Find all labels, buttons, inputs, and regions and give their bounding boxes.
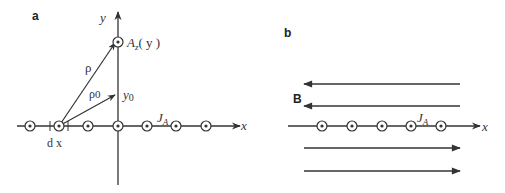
rho-label: ρ bbox=[85, 60, 92, 75]
current-out-icon bbox=[113, 121, 123, 131]
potential-label: Az( y ) bbox=[126, 35, 160, 52]
current-out-icon bbox=[406, 121, 416, 131]
current-out-icon bbox=[377, 121, 387, 131]
rho-vector bbox=[59, 43, 115, 126]
figure: a y x d x ρ ρ0 y0 Az( y ) JA bbox=[0, 0, 505, 193]
rho0-label: ρ0 bbox=[89, 87, 101, 101]
y-axis-label: y bbox=[98, 10, 106, 25]
current-out-icon bbox=[54, 121, 64, 131]
current-out-icon bbox=[317, 121, 327, 131]
current-label-b: JA bbox=[417, 110, 429, 127]
x-axis-label: x bbox=[240, 118, 247, 133]
panel-a-label: a bbox=[32, 9, 39, 23]
panel-a: a y x d x ρ ρ0 y0 Az( y ) JA bbox=[17, 9, 247, 185]
current-out-icon bbox=[201, 121, 211, 131]
current-out-icon bbox=[142, 121, 152, 131]
current-out-icon bbox=[436, 121, 446, 131]
field-label: B bbox=[293, 92, 302, 106]
current-out-icon bbox=[347, 121, 357, 131]
y0-label: y0 bbox=[121, 87, 134, 103]
current-out-icon bbox=[171, 121, 181, 131]
current-out-icon bbox=[25, 121, 35, 131]
x-axis-label-b: x bbox=[481, 119, 488, 134]
dx-label: d x bbox=[47, 136, 62, 150]
panel-b: b B x JA bbox=[284, 26, 488, 171]
current-out-icon bbox=[83, 121, 93, 131]
current-label: JA bbox=[157, 110, 169, 127]
observation-point-icon bbox=[113, 37, 123, 47]
panel-b-label: b bbox=[284, 26, 291, 40]
